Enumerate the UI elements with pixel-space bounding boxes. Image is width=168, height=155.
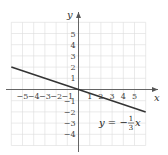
y-axis-label: y <box>66 9 73 20</box>
x-axis-label: x <box>154 92 160 103</box>
y-tick-label: 4 <box>70 41 75 50</box>
y-tick-label: −1 <box>64 97 76 106</box>
equation-prefix: y = − <box>98 117 128 128</box>
y-tick-label: −3 <box>64 119 76 128</box>
coordinate-graph: x y −5−4−3−2−11234554321−1−2−3−4 y = − 1… <box>0 0 168 155</box>
y-tick-label: −4 <box>64 130 76 139</box>
y-tick-label: 2 <box>70 63 75 72</box>
equation-fraction-numerator: 1 <box>129 115 133 123</box>
equation-fraction-denominator: 3 <box>129 124 133 132</box>
y-tick-label: 1 <box>70 74 75 83</box>
x-tick-label: −5 <box>17 92 29 101</box>
x-tick-label: 4 <box>121 92 126 101</box>
x-tick-label: −2 <box>50 92 62 101</box>
x-tick-label: 5 <box>132 92 137 101</box>
x-tick-label: −3 <box>39 92 51 101</box>
equation-suffix: x <box>135 117 141 128</box>
x-tick-label: 3 <box>110 92 115 101</box>
y-axis-arrow-icon <box>76 12 81 18</box>
y-tick-label: 5 <box>70 30 75 39</box>
y-tick-label: −2 <box>64 108 76 117</box>
axes: x y <box>6 9 160 152</box>
x-tick-label: −4 <box>28 92 40 101</box>
y-tick-label: 3 <box>70 52 75 61</box>
